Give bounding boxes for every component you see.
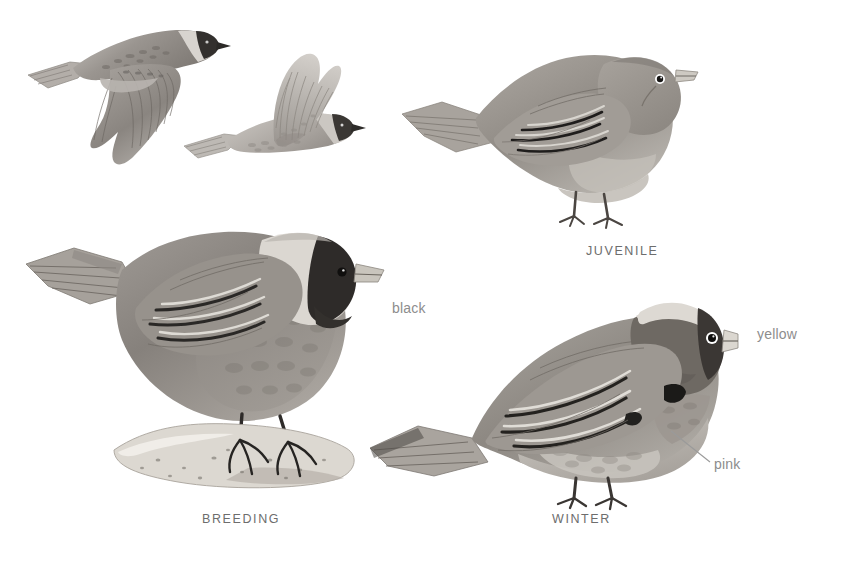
annotation-pink: pink <box>714 456 740 472</box>
winter-adult-bird <box>368 262 738 512</box>
breeding-adult-bird <box>18 228 388 488</box>
caption-breeding: BREEDING <box>202 512 280 526</box>
juvenile-bird <box>398 38 698 238</box>
annotation-yellow: yellow <box>757 326 797 342</box>
bird-plate-canvas: JUVENILE <box>0 0 855 563</box>
bird-in-flight-underside <box>180 48 370 183</box>
caption-juvenile: JUVENILE <box>586 244 659 258</box>
caption-winter: WINTER <box>552 512 611 526</box>
